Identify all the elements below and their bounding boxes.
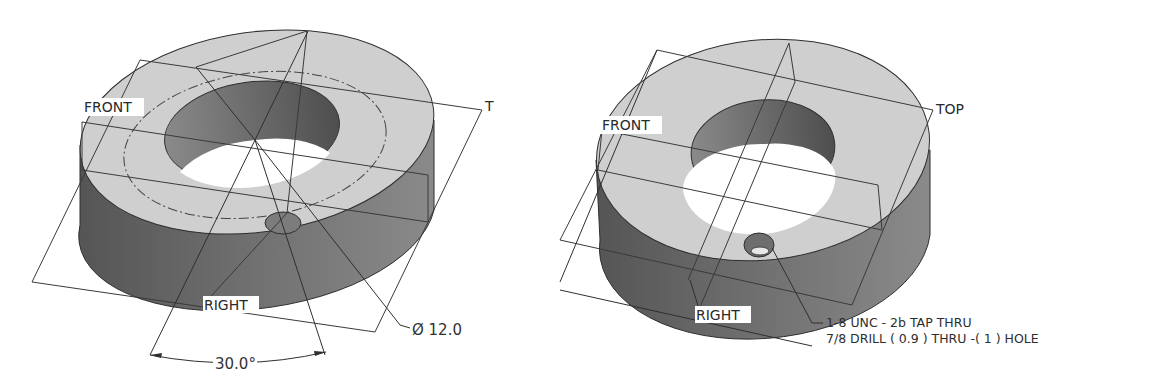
hole-callout-line-2: 7/8 DRILL ( 0.9 ) THRU -( 1 ) HOLE (826, 331, 1039, 346)
right-front-label: FRONT (602, 117, 650, 133)
right-right-label: RIGHT (696, 307, 740, 323)
angle-dimension: 30.0° (215, 355, 256, 373)
right-top-label: TOP (935, 101, 964, 117)
left-isometric-view: FRONT T RIGHT Ø 12.0 30.0° (32, 8, 494, 373)
right-isometric-view: FRONT TOP RIGHT 1-8 UNC - 2b TAP THRU 7/… (560, 23, 1039, 346)
bolt-circle-dimension: Ø 12.0 (412, 321, 462, 339)
right-tapped-hole-thread (751, 247, 769, 255)
left-right-label: RIGHT (204, 297, 248, 313)
cad-drawing-canvas: FRONT T RIGHT Ø 12.0 30.0° FRONT TOP (0, 0, 1150, 374)
left-top-label: T (484, 98, 494, 114)
left-front-label: FRONT (84, 99, 132, 115)
left-dim-line-6 (400, 325, 410, 328)
hole-callout-line-1: 1-8 UNC - 2b TAP THRU (826, 315, 972, 330)
